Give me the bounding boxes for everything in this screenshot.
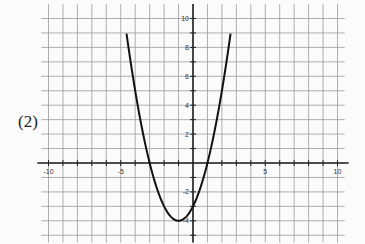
y-tick-label: 2 — [185, 131, 189, 138]
x-tick-label: 5 — [263, 168, 267, 175]
y-tick-label: 8 — [185, 44, 189, 51]
x-tick-label: 10 — [334, 168, 342, 175]
x-tick-label: -10 — [43, 168, 53, 175]
y-tick-label: 10 — [181, 15, 189, 22]
y-tick-label: 4 — [185, 102, 189, 109]
x-tick-label: -5 — [118, 168, 124, 175]
y-tick-label: -2 — [183, 188, 189, 195]
parabola-graph: -10-5510108642-2-4 — [0, 0, 365, 244]
y-tick-label: 6 — [185, 73, 189, 80]
